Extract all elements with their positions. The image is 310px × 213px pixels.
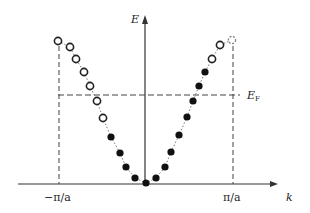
empty-state-point — [72, 55, 79, 62]
empty-state-point — [93, 97, 100, 104]
fermi-level-label: EF — [247, 90, 260, 103]
right-boundary-label: π/a — [223, 192, 241, 203]
filled-state-point — [131, 174, 138, 181]
filled-state-point — [183, 113, 190, 120]
filled-state-point — [189, 97, 196, 104]
filled-state-point — [107, 133, 114, 140]
empty-state-point — [54, 37, 61, 44]
filled-state-point — [195, 82, 202, 89]
empty-state-point — [99, 114, 106, 121]
empty-state-point — [66, 43, 73, 50]
right-boundary-text: π/a — [223, 191, 241, 204]
k-axis-label: k — [286, 192, 293, 203]
filled-state-point — [161, 163, 168, 170]
filled-state-point — [142, 179, 149, 186]
empty-state-point — [80, 68, 87, 75]
e-axis-label: E — [131, 14, 139, 25]
empty-state-point — [86, 82, 93, 89]
filled-state-point — [175, 131, 182, 138]
band-diagram — [0, 0, 310, 213]
boundary-state-point — [228, 36, 235, 43]
fermi-level-label-sub: F — [255, 95, 260, 103]
filled-state-point — [167, 148, 174, 155]
filled-state-point — [116, 149, 123, 156]
filled-state-point — [152, 174, 159, 181]
fermi-level-label-main: E — [247, 89, 255, 102]
empty-state-point — [216, 41, 223, 48]
filled-state-point — [122, 163, 129, 170]
filled-state-point — [201, 68, 208, 75]
e-axis-arrow-icon — [142, 15, 148, 24]
left-boundary-text: −π/a — [44, 191, 71, 204]
left-boundary-label: −π/a — [44, 192, 71, 203]
empty-state-point — [208, 55, 215, 62]
k-axis-arrow-icon — [270, 181, 278, 187]
